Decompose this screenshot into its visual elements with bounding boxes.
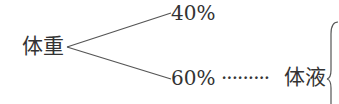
curly-brace-icon — [327, 22, 338, 104]
branch-line-top — [67, 13, 171, 47]
branch-label-top: 40% — [171, 3, 215, 23]
dotted-leader: ········· — [221, 68, 269, 88]
child-node-label: 体液 — [284, 67, 326, 88]
branch-label-bottom: 60% — [171, 68, 215, 88]
root-node-label: 体重 — [22, 36, 64, 57]
branch-line-bottom — [67, 47, 171, 79]
